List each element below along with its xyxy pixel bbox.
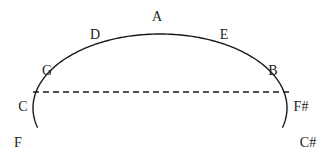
label-note-a: A bbox=[152, 10, 162, 24]
label-note-e: E bbox=[220, 28, 229, 42]
diagram-canvas: ADEGBCF#FC# bbox=[0, 0, 330, 164]
label-note-csharp: C# bbox=[300, 136, 316, 150]
label-note-c: C bbox=[18, 100, 27, 114]
label-note-d: D bbox=[90, 28, 100, 42]
label-note-b: B bbox=[268, 64, 277, 78]
label-note-fsharp: F# bbox=[294, 100, 309, 114]
circle-of-fifths-arc bbox=[33, 34, 287, 127]
arc-diagram-svg bbox=[0, 0, 330, 164]
label-note-f: F bbox=[14, 136, 22, 150]
label-note-g: G bbox=[42, 64, 52, 78]
